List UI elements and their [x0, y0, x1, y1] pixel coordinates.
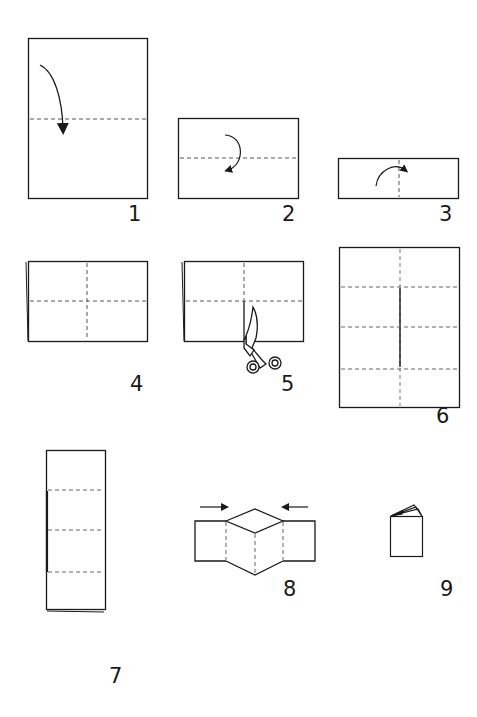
step-number-3: 3 — [439, 204, 452, 225]
right-flap — [283, 521, 315, 561]
step-number-1: 1 — [128, 204, 141, 225]
step-2-figure — [179, 119, 299, 199]
top-diamond — [226, 509, 283, 533]
back-sheet-edge — [26, 262, 28, 341]
step-5-figure — [182, 262, 304, 374]
step-3-figure — [339, 159, 459, 199]
step-number-7: 7 — [109, 666, 122, 687]
step-number-2: 2 — [282, 204, 295, 225]
step-8-figure — [195, 507, 315, 575]
step-4-figure — [26, 262, 148, 342]
step-number-5: 5 — [281, 374, 294, 395]
step-6-figure — [340, 248, 460, 408]
step-7-figure — [47, 451, 106, 613]
step-number-6: 6 — [436, 406, 449, 427]
left-flap — [195, 521, 226, 561]
back-sheet-edge — [182, 262, 184, 341]
step-number-8: 8 — [283, 579, 296, 600]
back-sheet-edge — [47, 611, 104, 612]
book-icon — [391, 517, 423, 557]
step-number-4: 4 — [130, 374, 143, 395]
step-number-9: 9 — [440, 579, 453, 600]
folding-diagram — [0, 0, 477, 717]
step-9-figure — [391, 505, 423, 557]
paper-sheet — [339, 159, 459, 199]
step-1-figure — [29, 39, 148, 199]
